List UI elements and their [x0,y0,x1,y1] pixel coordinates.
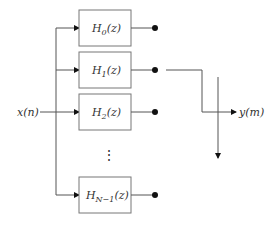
filter-block-n-minus-1: HN−1(z) [79,177,131,213]
contact-dot-1 [152,67,158,73]
contact-dot-2 [152,109,158,115]
filter-block-0: H0(z) [79,10,131,46]
contact-dot-0 [152,25,158,31]
commutator-path [166,70,236,112]
contact-dot-3 [152,192,158,198]
input-label: x(n) [17,106,39,119]
svg-text:H2(z): H2(z) [91,106,121,121]
output-label: y(m) [238,106,264,119]
filter-bank-diagram: x(n) H0(z) H1(z) H2(z) HN−1(z) ⋮ y(m) [0,0,272,226]
ellipsis: ⋮ [102,147,116,163]
svg-text:H1(z): H1(z) [91,64,121,79]
svg-text:H0(z): H0(z) [91,22,121,37]
filter-block-2: H2(z) [79,94,131,130]
filter-block-1: H1(z) [79,52,131,88]
